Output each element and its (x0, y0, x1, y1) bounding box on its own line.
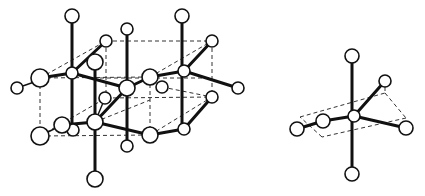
atom (175, 9, 189, 23)
atom (156, 81, 168, 93)
atom (11, 82, 23, 94)
atom (87, 114, 103, 130)
central-atom (348, 110, 360, 122)
atom (87, 54, 103, 70)
atom (54, 117, 70, 133)
atom (316, 114, 330, 128)
atom (178, 123, 190, 135)
atom (87, 171, 103, 187)
atom (379, 75, 391, 87)
atom (345, 167, 359, 181)
atom (142, 127, 158, 143)
atom (121, 140, 133, 152)
atom (31, 127, 49, 145)
diagram-canvas (0, 0, 425, 196)
crystal-structure-figure (0, 0, 425, 196)
atom (178, 65, 190, 77)
atom (345, 49, 359, 63)
atom (119, 80, 135, 96)
atom (206, 35, 218, 47)
panel-extended-lattice (11, 9, 244, 187)
panel-coordination-octahedron (290, 49, 413, 181)
atom (100, 35, 112, 47)
atom (232, 82, 244, 94)
atom (206, 91, 218, 103)
atom (399, 121, 413, 135)
atom (121, 23, 133, 35)
atom (99, 92, 111, 104)
atom (31, 69, 49, 87)
atom (65, 9, 79, 23)
atom (290, 122, 304, 136)
atom (66, 67, 78, 79)
atom (142, 69, 158, 85)
